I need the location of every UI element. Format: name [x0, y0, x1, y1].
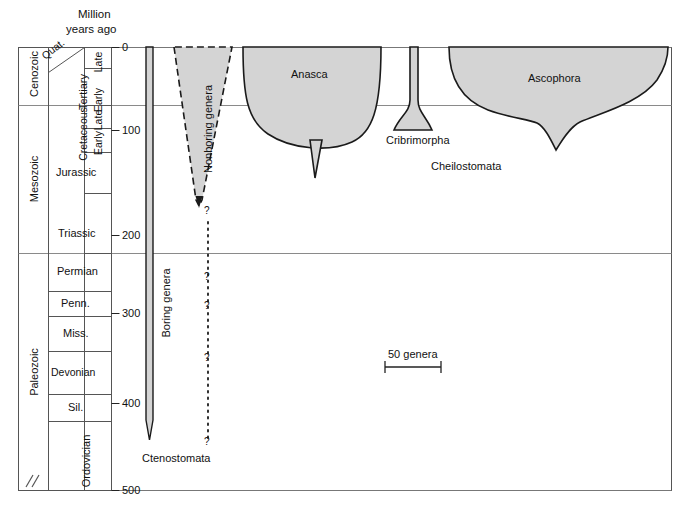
- period-label-sil: Sil.: [68, 401, 83, 413]
- period-label-jurassic: Jurassic: [56, 166, 96, 178]
- query-mark-2: ?: [204, 271, 210, 282]
- period-label-triassic: Triassic: [58, 227, 95, 239]
- tick-label-300: 300: [122, 307, 140, 319]
- period-label-ordovician: Ordovician: [80, 417, 92, 505]
- spindle-label-boring-genera: Boring genera: [160, 243, 172, 363]
- period-label-permian: Permian: [57, 265, 98, 277]
- query-mark-4: ?: [204, 352, 210, 363]
- era-label-mesozoic: Mesozoic: [28, 150, 40, 208]
- tick-label-200: 200: [122, 229, 140, 241]
- tick-label-0: 0: [122, 41, 128, 53]
- scale-bar: [385, 361, 441, 373]
- tick-label-100: 100: [122, 124, 140, 136]
- figure-canvas: Million years ago 0 100 200 300 400 500 …: [0, 0, 694, 516]
- era-label-paleozoic: Paleozoic: [28, 341, 40, 403]
- spindle-boring-genera: [146, 47, 153, 440]
- axis-title-line2: years ago: [66, 23, 117, 35]
- spindle-cribrimorpha: [394, 47, 432, 130]
- period-label-devonian: Devonian: [51, 366, 95, 378]
- spindle-anasca: [243, 47, 381, 148]
- epoch-label-late-tertiary: Late: [92, 47, 104, 77]
- query-mark-5: ?: [204, 436, 210, 447]
- epoch-label-early-cretaceous: Early: [92, 125, 104, 161]
- tick-label-500: 500: [122, 484, 140, 496]
- axis-ticks: [112, 48, 120, 491]
- axis-title-line1: Million: [78, 8, 111, 20]
- period-label-miss: Miss.: [63, 327, 89, 339]
- spindle-ascophora: [449, 47, 668, 150]
- spindle-label-anasca: Anasca: [291, 68, 328, 80]
- axis-break-marks: [26, 475, 39, 487]
- spindle-label-ascophora: Ascophora: [528, 72, 581, 84]
- spindle-label-cribrimorpha: Cribrimorpha: [386, 134, 450, 146]
- query-mark-3: ?: [204, 300, 210, 311]
- group-label-ctenostomata: Ctenostomata: [142, 452, 210, 464]
- scale-bar-label: 50 genera: [388, 348, 438, 360]
- group-label-cheilostomata: Cheilostomata: [431, 160, 501, 172]
- query-mark-1: ?: [204, 205, 210, 216]
- era-label-cenozoic: Cenozoic: [28, 48, 40, 100]
- anasca-tail-spike: [310, 140, 322, 178]
- spindle-label-nonboring-genera: Nonboring genera: [202, 54, 214, 204]
- tick-label-400: 400: [122, 397, 140, 409]
- diagram-svg: [0, 0, 694, 516]
- period-label-penn: Penn.: [61, 297, 90, 309]
